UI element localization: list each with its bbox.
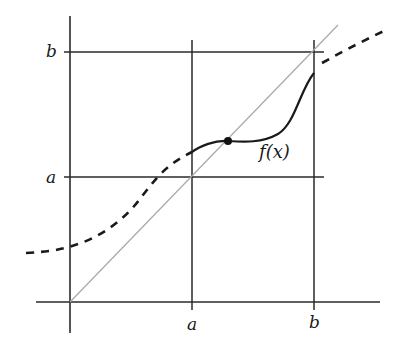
x-axis-label-a: a: [187, 316, 197, 333]
function-label: f(x): [259, 143, 290, 161]
fixed-point-dot: [224, 137, 232, 145]
fixed-point-diagram: [0, 0, 404, 346]
curve-dashed-right: [322, 30, 386, 63]
diagonal-y-equals-x: [70, 25, 338, 302]
y-axis-label-a: a: [46, 169, 56, 186]
y-axis-label-b: b: [46, 43, 57, 60]
x-axis-label-b: b: [309, 314, 320, 331]
